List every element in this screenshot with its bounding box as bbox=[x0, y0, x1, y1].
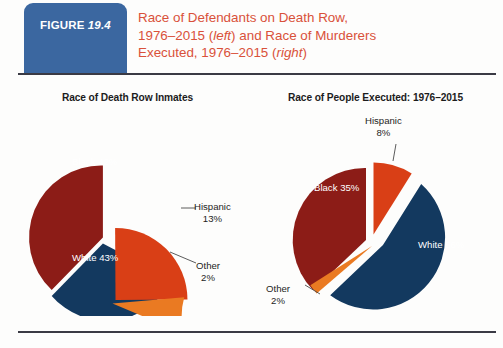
figure-title-line3-b: ) bbox=[303, 45, 307, 60]
right-black-slice-label: Black 35% bbox=[314, 182, 359, 194]
header-divider-rule bbox=[18, 73, 496, 75]
left-hispanic-pct: 13% bbox=[194, 213, 231, 225]
figure-badge-label: FIGURE19.4 bbox=[24, 19, 127, 31]
left-slice-hispanic[interactable] bbox=[115, 228, 187, 300]
left-other-pct: 2% bbox=[196, 272, 220, 284]
pie-chart-death-row-inmates: Race of Death Row Inmates Black 42% Whit… bbox=[4, 86, 251, 316]
right-other-pct: 2% bbox=[266, 295, 290, 307]
right-hispanic-name: Hispanic bbox=[365, 115, 402, 126]
right-white-pct: 56% bbox=[445, 239, 464, 250]
left-hispanic-callout: Hispanic 13% bbox=[194, 201, 231, 224]
left-white-name: White bbox=[72, 252, 97, 263]
figure-title: Race of Defendants on Death Row, 1976–20… bbox=[138, 9, 438, 62]
figure-header: FIGURE19.4 Race of Defendants on Death R… bbox=[0, 0, 503, 76]
figure-number-badge: FIGURE19.4 bbox=[24, 3, 127, 73]
right-hispanic-leader-line bbox=[393, 144, 396, 161]
right-hispanic-callout: Hispanic 8% bbox=[365, 115, 402, 138]
figure-title-line2-a: 1976–2015 ( bbox=[138, 28, 213, 43]
figure-word: FIGURE bbox=[40, 19, 85, 31]
left-other-name: Other bbox=[196, 260, 220, 271]
figure-title-line2-emphasis: left bbox=[213, 28, 231, 43]
left-hispanic-name: Hispanic bbox=[194, 201, 231, 212]
left-white-slice-label: White 43% bbox=[72, 252, 118, 264]
right-white-name: White bbox=[418, 239, 443, 250]
right-white-slice-label: White 56% bbox=[418, 239, 464, 251]
left-white-pct: 43% bbox=[99, 252, 118, 263]
right-other-name: Other bbox=[266, 283, 290, 294]
figure-title-line3-emphasis: right bbox=[276, 45, 302, 60]
right-black-name: Black bbox=[314, 182, 337, 193]
right-other-callout: Other 2% bbox=[266, 283, 290, 306]
figure-title-line2-b: ) and Race of Murderers bbox=[231, 28, 376, 43]
figure-title-line1: Race of Defendants on Death Row, bbox=[138, 10, 348, 25]
right-hispanic-pct: 8% bbox=[365, 127, 402, 139]
figure-number: 19.4 bbox=[88, 19, 111, 31]
left-black-pct: 42% bbox=[98, 156, 117, 167]
left-black-name: Black bbox=[72, 156, 95, 167]
pie-chart-people-executed: Race of People Executed: 1976–2015 Black… bbox=[252, 86, 499, 316]
left-other-callout: Other 2% bbox=[196, 260, 220, 283]
left-black-slice-label: Black 42% bbox=[72, 156, 117, 168]
right-black-pct: 35% bbox=[340, 182, 359, 193]
figure-title-line3-a: Executed, 1976–2015 ( bbox=[138, 45, 276, 60]
footer-divider-rule bbox=[18, 331, 496, 333]
